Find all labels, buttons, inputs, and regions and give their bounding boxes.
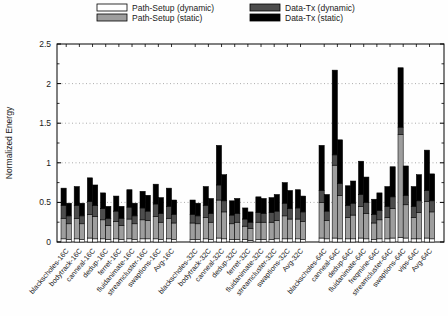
bar-segment-data-tx-static- (74, 187, 79, 206)
bar-segment-path-setup-static- (324, 221, 329, 239)
bar-segment-data-tx-static- (282, 183, 287, 204)
bar-segment-data-tx-dynamic- (424, 191, 429, 202)
bar-segment-data-tx-static- (222, 175, 227, 201)
bar-segment-data-tx-dynamic- (119, 218, 124, 225)
bar-segment-data-tx-static- (87, 178, 92, 202)
y-tick-label: 1 (46, 158, 51, 168)
bar-segment-path-setup-static- (398, 134, 403, 237)
bar-segment-data-tx-dynamic- (398, 127, 403, 134)
bar-segment-data-tx-dynamic- (230, 215, 235, 224)
legend-swatch-2 (250, 4, 280, 11)
bar-segment-path-setup-static- (61, 218, 66, 239)
bar-segment-path-setup-static- (158, 222, 163, 239)
bar-segment-data-tx-dynamic- (372, 214, 377, 223)
bar-segment-path-setup-static- (403, 205, 408, 238)
bar-segment-data-tx-dynamic- (101, 209, 106, 220)
bar-segment-data-tx-static- (332, 70, 337, 155)
bar-segment-path-setup-dynamic- (377, 239, 382, 242)
bar-segment-data-tx-static- (287, 191, 292, 209)
bar-segment-data-tx-dynamic- (106, 218, 111, 225)
bar-segment-path-setup-dynamic- (166, 239, 171, 242)
bar-segment-data-tx-static- (145, 195, 150, 211)
bar-segment-path-setup-static- (145, 221, 150, 239)
bar-segment-data-tx-dynamic- (385, 206, 390, 217)
legend-label-2: Data-Tx (dynamic) (285, 3, 355, 13)
bar-segment-data-tx-dynamic- (203, 206, 208, 218)
bar-segment-path-setup-dynamic- (364, 239, 369, 242)
bar-segment-data-tx-dynamic- (359, 194, 364, 206)
bar-segment-data-tx-dynamic- (93, 206, 98, 217)
bar-segment-data-tx-dynamic- (158, 213, 163, 222)
bar-segment-path-setup-static- (153, 217, 158, 239)
bar-segment-path-setup-dynamic- (145, 239, 150, 242)
bar-segment-data-tx-static- (106, 206, 111, 218)
bar-segment-path-setup-dynamic- (390, 238, 395, 242)
bar-segment-path-setup-static- (208, 222, 213, 239)
bar-segment-path-setup-dynamic- (132, 240, 137, 242)
bar-segment-path-setup-static- (261, 222, 266, 239)
bar-segment-path-setup-static- (248, 229, 253, 241)
bar-segment-data-tx-static- (372, 199, 377, 214)
bar-segment-data-tx-dynamic- (248, 222, 253, 228)
bar-segment-data-tx-dynamic- (261, 213, 266, 222)
bar-segment-path-setup-static- (269, 222, 274, 239)
bar-segment-path-setup-dynamic- (79, 240, 84, 242)
bar-segment-data-tx-dynamic- (140, 208, 145, 220)
bar-segment-path-setup-static- (364, 213, 369, 238)
bar-segment-data-tx-dynamic- (256, 213, 261, 223)
bar-segment-path-setup-dynamic- (61, 239, 66, 242)
bar-segment-data-tx-dynamic- (127, 207, 132, 219)
bar-segment-path-setup-dynamic- (203, 239, 208, 242)
bar-segment-data-tx-static- (208, 198, 213, 213)
bar-segment-path-setup-static- (390, 209, 395, 238)
bar-segment-data-tx-dynamic- (332, 155, 337, 165)
bar-segment-path-setup-static- (172, 223, 177, 240)
bar-segment-path-setup-dynamic- (287, 239, 292, 242)
bar-segment-data-tx-static- (66, 203, 71, 216)
legend-label-1: Path-Setup (static) (132, 13, 203, 23)
bar-segment-data-tx-static- (132, 203, 137, 216)
bar-segment-data-tx-static- (256, 197, 261, 213)
y-tick-label: 1.5 (39, 118, 51, 128)
bar-segment-data-tx-static- (248, 212, 253, 222)
bar-segment-path-setup-static- (140, 220, 145, 239)
bar-segment-data-tx-static- (364, 177, 369, 202)
bar-segment-path-setup-dynamic- (295, 239, 300, 242)
bar-segment-data-tx-static- (203, 187, 208, 206)
bar-segment-path-setup-dynamic- (372, 240, 377, 242)
bar-segment-data-tx-static- (319, 145, 324, 190)
bar-segment-data-tx-static- (153, 184, 158, 204)
bar-segment-data-tx-dynamic- (377, 210, 382, 220)
bar-segment-path-setup-static- (195, 224, 200, 240)
bar-segment-data-tx-static- (140, 191, 145, 208)
bar-segment-data-tx-dynamic- (337, 183, 342, 195)
bar-segment-path-setup-static- (106, 225, 111, 239)
bar-segment-data-tx-dynamic- (87, 202, 92, 215)
bar-segment-path-setup-dynamic- (359, 238, 364, 242)
bar-segment-path-setup-dynamic- (230, 240, 235, 242)
bar-segment-data-tx-dynamic- (222, 201, 227, 212)
y-tick-label: 0.5 (39, 197, 51, 207)
bar-segment-data-tx-static- (195, 203, 200, 216)
bar-segment-data-tx-dynamic- (145, 211, 150, 221)
bar-segment-data-tx-dynamic- (66, 216, 71, 224)
bar-segment-data-tx-static- (166, 188, 171, 206)
bar-segment-data-tx-static- (403, 166, 408, 195)
bar-segment-path-setup-dynamic- (195, 240, 200, 242)
bar-segment-data-tx-static- (411, 187, 416, 207)
bar-segment-data-tx-dynamic- (166, 206, 171, 218)
bar-segment-data-tx-dynamic- (345, 206, 350, 218)
bar-segment-path-setup-dynamic- (319, 238, 324, 242)
bar-segment-data-tx-static- (390, 167, 395, 197)
bar-segment-data-tx-dynamic- (319, 191, 324, 203)
bar-segment-data-tx-dynamic- (411, 206, 416, 217)
bar-segment-path-setup-static- (332, 165, 337, 238)
bar-segment-data-tx-static- (235, 198, 240, 213)
bar-segment-path-setup-static- (230, 224, 235, 240)
bar-segment-path-setup-dynamic- (430, 239, 435, 242)
bar-segment-path-setup-dynamic- (153, 239, 158, 242)
bar-segment-path-setup-static- (203, 217, 208, 238)
bar-segment-path-setup-static- (337, 195, 342, 239)
bar-segment-data-tx-dynamic- (324, 211, 329, 221)
legend-swatch-1 (97, 14, 127, 21)
